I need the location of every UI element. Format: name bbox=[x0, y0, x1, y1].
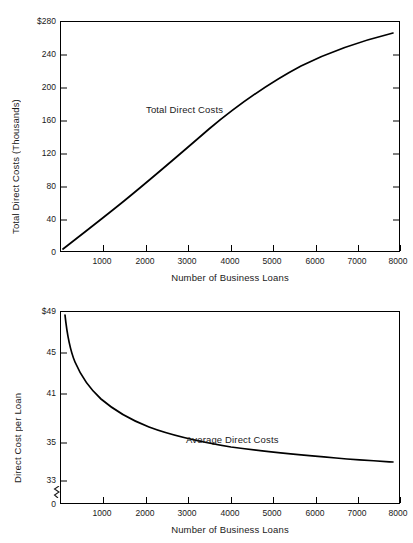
x-tick-top-4000 bbox=[231, 245, 232, 251]
plot-area-top: Total Direct Costs bbox=[60, 21, 400, 252]
y-tick-label-top-0: 0 bbox=[14, 247, 56, 257]
y-tick-top-160-left bbox=[61, 121, 67, 122]
curve-total-direct-costs bbox=[61, 22, 401, 253]
y-tick-label-top-240: 240 bbox=[14, 49, 56, 59]
x-tick-top-1000 bbox=[103, 245, 104, 251]
y-tick-label-bottom-45: 45 bbox=[14, 347, 56, 357]
y-tick-bottom-45-left bbox=[61, 353, 67, 354]
x-tick-bottom-8000 bbox=[400, 497, 401, 503]
x-tick-bottom-1000 bbox=[103, 497, 104, 503]
x-tick-label-top-1000: 1000 bbox=[93, 256, 112, 266]
x-tick-label-bottom-2000: 2000 bbox=[136, 508, 155, 518]
x-tick-label-top-6000: 6000 bbox=[306, 256, 325, 266]
x-axis-title-top: Number of Business Loans bbox=[60, 272, 400, 283]
x-tick-label-top-7000: 7000 bbox=[348, 256, 367, 266]
y-tick-top-80-right bbox=[393, 187, 399, 188]
x-tick-top-6000 bbox=[316, 245, 317, 251]
y-tick-label-top-120: 120 bbox=[14, 148, 56, 158]
x-tick-bottom-7000 bbox=[358, 497, 359, 503]
x-tick-top-5000 bbox=[273, 245, 274, 251]
x-tick-label-bottom-8000: 8000 bbox=[389, 508, 408, 518]
x-tick-top-2000 bbox=[146, 245, 147, 251]
y-tick-top-40-left bbox=[61, 220, 67, 221]
y-axis-title-top: Total Direct Costs (Thousands) bbox=[10, 34, 21, 234]
x-tick-top-7000 bbox=[358, 245, 359, 251]
x-tick-top-8000 bbox=[400, 245, 401, 251]
y-tick-top-80-left bbox=[61, 187, 67, 188]
y-tick-top-120-right bbox=[393, 154, 399, 155]
y-tick-top-240-left bbox=[61, 55, 67, 56]
y-tick-top-200-right bbox=[393, 88, 399, 89]
x-axis-title-bottom: Number of Business Loans bbox=[60, 524, 400, 535]
curve-average-direct-costs bbox=[61, 312, 401, 505]
x-tick-label-top-8000: 8000 bbox=[389, 256, 408, 266]
x-tick-label-bottom-7000: 7000 bbox=[348, 508, 367, 518]
x-tick-label-bottom-6000: 6000 bbox=[306, 508, 325, 518]
y-axis-title-bottom: Direct Cost per Loan bbox=[12, 318, 23, 483]
x-tick-label-top-3000: 3000 bbox=[178, 256, 197, 266]
x-tick-label-top-4000: 4000 bbox=[221, 256, 240, 266]
y-tick-top-40-right bbox=[393, 220, 399, 221]
y-tick-label-bottom-49: $49 bbox=[14, 306, 56, 316]
chart-panel-total-direct-costs: Total Direct Costs (Thousands) $280 240 … bbox=[0, 0, 413, 292]
y-tick-label-top-280: $280 bbox=[14, 16, 56, 26]
y-tick-label-top-160: 160 bbox=[14, 115, 56, 125]
x-tick-label-bottom-4000: 4000 bbox=[221, 508, 240, 518]
series-label-total-direct-costs: Total Direct Costs bbox=[146, 104, 223, 115]
x-tick-bottom-2000 bbox=[146, 497, 147, 503]
x-tick-label-top-5000: 5000 bbox=[263, 256, 282, 266]
x-tick-top-3000 bbox=[188, 245, 189, 251]
y-tick-label-bottom-35: 35 bbox=[14, 437, 56, 447]
chart-panel-average-direct-costs: Direct Cost per Loan $49 45 41 35 33 0 bbox=[0, 292, 413, 543]
y-tick-top-240-right bbox=[393, 55, 399, 56]
x-tick-bottom-5000 bbox=[273, 497, 274, 503]
y-tick-top-200-left bbox=[61, 88, 67, 89]
x-tick-label-bottom-5000: 5000 bbox=[263, 508, 282, 518]
plot-area-bottom: Average Direct Costs bbox=[60, 311, 400, 504]
y-tick-label-bottom-41: 41 bbox=[14, 388, 56, 398]
y-tick-label-bottom-0: 0 bbox=[14, 499, 56, 509]
y-tick-label-bottom-33: 33 bbox=[14, 475, 56, 485]
x-tick-bottom-6000 bbox=[316, 497, 317, 503]
x-tick-label-bottom-1000: 1000 bbox=[93, 508, 112, 518]
y-tick-top-160-right bbox=[393, 121, 399, 122]
y-tick-bottom-35-left bbox=[61, 443, 67, 444]
x-tick-bottom-4000 bbox=[231, 497, 232, 503]
two-panel-cost-figure: Total Direct Costs (Thousands) $280 240 … bbox=[0, 0, 413, 543]
y-tick-label-top-200: 200 bbox=[14, 82, 56, 92]
x-tick-bottom-3000 bbox=[188, 497, 189, 503]
x-tick-label-top-2000: 2000 bbox=[136, 256, 155, 266]
y-tick-label-top-80: 80 bbox=[14, 181, 56, 191]
y-tick-top-120-left bbox=[61, 154, 67, 155]
y-tick-label-top-40: 40 bbox=[14, 214, 56, 224]
y-tick-bottom-41-left bbox=[61, 394, 67, 395]
series-label-average-direct-costs: Average Direct Costs bbox=[186, 434, 279, 445]
x-tick-label-bottom-3000: 3000 bbox=[178, 508, 197, 518]
y-tick-bottom-33-left bbox=[61, 481, 67, 482]
